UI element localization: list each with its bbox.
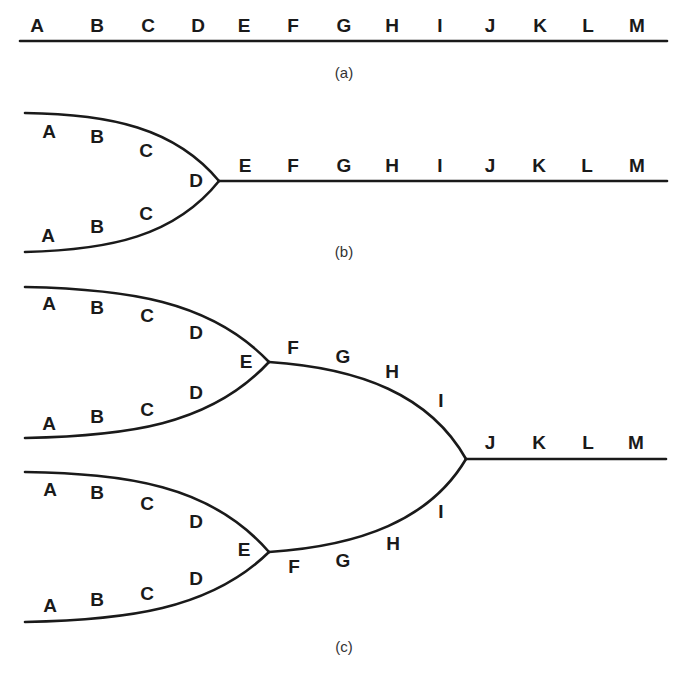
label-c-2-D: D [189, 382, 203, 403]
label-c-1-D: D [189, 322, 203, 343]
label-a-G: G [337, 15, 352, 36]
label-c-up-H: H [385, 361, 399, 382]
label-a-J: J [485, 15, 496, 36]
panel-a: A B C D E F G H I J K L M (a) [20, 15, 667, 81]
label-b-I: I [437, 155, 442, 176]
label-c-up-F: F [287, 337, 299, 358]
label-a-H: H [385, 15, 399, 36]
label-c-3-C: C [140, 493, 154, 514]
label-a-B: B [90, 15, 104, 36]
label-c-4-C: C [140, 583, 154, 604]
label-b-J: J [485, 155, 496, 176]
label-c-1-A: A [42, 293, 56, 314]
label-c-L: L [582, 432, 594, 453]
label-a-C: C [141, 15, 155, 36]
label-c-2-B: B [90, 406, 104, 427]
label-b-junction-D: D [189, 170, 203, 191]
label-c-J: J [485, 432, 496, 453]
label-c-M: M [628, 432, 644, 453]
label-c-low-I: I [438, 501, 443, 522]
label-c-low-H: H [386, 533, 400, 554]
label-c-1-B: B [90, 297, 104, 318]
label-c-3-D: D [189, 511, 203, 532]
panel-c: A B C D E D C B A F G H I J K L M I H G … [25, 287, 666, 655]
branching-diagram: A B C D E F G H I J K L M (a) A B C D C … [0, 0, 690, 679]
label-a-A: A [30, 15, 44, 36]
label-b-lower-B: B [90, 216, 104, 237]
label-c-3-B: B [90, 482, 104, 503]
label-c-up-G: G [336, 346, 351, 367]
label-b-L: L [581, 155, 593, 176]
panel-b: A B C D C B A E F G H I J K L M (b) [25, 113, 667, 260]
label-b-E: E [239, 155, 252, 176]
label-b-lower-C: C [139, 203, 153, 224]
label-b-F: F [287, 155, 299, 176]
label-b-upper-B: B [90, 126, 104, 147]
caption-b: (b) [335, 243, 353, 260]
label-a-L: L [582, 15, 594, 36]
label-c-3-E: E [238, 539, 251, 560]
label-a-F: F [287, 15, 299, 36]
label-b-upper-C: C [139, 140, 153, 161]
label-c-4-A: A [43, 595, 57, 616]
panel-c-lower-continuation [269, 459, 466, 552]
label-c-3-A: A [43, 479, 57, 500]
label-a-K: K [533, 15, 547, 36]
label-c-2-C: C [140, 399, 154, 420]
label-b-M: M [629, 155, 645, 176]
label-c-2-A: A [42, 413, 56, 434]
label-c-4-B: B [90, 589, 104, 610]
label-a-D: D [191, 15, 205, 36]
caption-c: (c) [335, 638, 353, 655]
label-c-K: K [532, 432, 546, 453]
label-b-lower-A: A [41, 225, 55, 246]
label-b-K: K [532, 155, 546, 176]
label-a-M: M [629, 15, 645, 36]
label-c-low-G: G [336, 550, 351, 571]
label-c-1-E: E [240, 351, 253, 372]
label-c-1-C: C [140, 305, 154, 326]
label-a-E: E [238, 15, 251, 36]
label-a-I: I [437, 15, 442, 36]
label-c-up-I: I [438, 390, 443, 411]
caption-a: (a) [335, 64, 353, 81]
label-c-4-D: D [189, 568, 203, 589]
label-c-low-F: F [288, 556, 300, 577]
label-b-upper-A: A [42, 121, 56, 142]
label-b-H: H [385, 155, 399, 176]
panel-c-upper-continuation [269, 362, 466, 459]
label-b-G: G [337, 155, 352, 176]
